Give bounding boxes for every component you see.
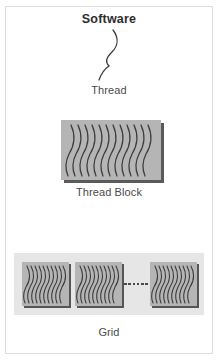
ellipsis-dot — [141, 283, 144, 286]
ellipsis-dot — [124, 283, 127, 286]
grid-ellipsis — [124, 281, 148, 287]
thread-block-figure — [61, 120, 161, 180]
grid-label: Grid — [0, 326, 218, 338]
grid-thread-block-n — [150, 262, 197, 306]
thread-curve-icon — [90, 28, 130, 82]
grid-thread-block-1 — [75, 262, 122, 306]
software-hierarchy-diagram: Software Thread — [0, 0, 218, 360]
grid-thread-block-0 — [22, 262, 69, 306]
thread-block-box — [61, 120, 161, 180]
ellipsis-dot — [137, 283, 140, 286]
thread-block-label: Thread Block — [0, 186, 218, 198]
ellipsis-dot — [145, 283, 148, 286]
ellipsis-dot — [128, 283, 131, 286]
grid-panel — [14, 253, 204, 315]
ellipsis-dot — [133, 283, 136, 286]
figure-title: Software — [0, 12, 218, 26]
thread-label: Thread — [0, 84, 218, 96]
